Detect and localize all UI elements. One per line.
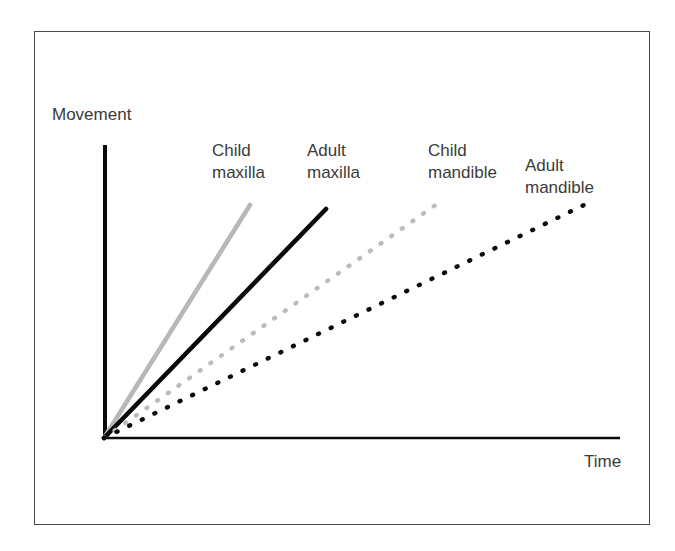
series-label-child-mandible: Child mandible [428,140,497,184]
series-label-adult-maxilla: Adult maxilla [307,140,360,184]
series-label-child-mandible-line1: Child [428,140,497,162]
x-axis-label: Time [584,451,621,472]
series-label-adult-mandible: Adult mandible [525,155,594,199]
series-label-child-maxilla-line2: maxilla [212,162,265,184]
series-label-child-maxilla-line1: Child [212,140,265,162]
series-line-child-maxilla [104,205,250,438]
series-label-adult-mandible-line2: mandible [525,177,594,199]
series-line-child-mandible [104,204,437,438]
series-label-adult-maxilla-line2: maxilla [307,162,360,184]
figure-canvas: Movement Time Child maxilla Adult maxill… [0,0,675,551]
series-label-adult-maxilla-line1: Adult [307,140,360,162]
series-line-adult-maxilla [104,209,326,438]
y-axis-label: Movement [52,104,131,125]
series-label-child-maxilla: Child maxilla [212,140,265,184]
series-label-child-mandible-line2: mandible [428,162,497,184]
plot-area [0,0,675,551]
series-label-adult-mandible-line1: Adult [525,155,594,177]
